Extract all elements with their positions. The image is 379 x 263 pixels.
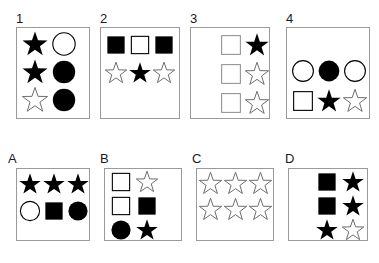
panel-D-shape-grid bbox=[314, 170, 366, 240]
shape-cell-star-filled bbox=[340, 170, 366, 194]
shape-cell-square-filled bbox=[314, 194, 340, 218]
panel-D: D bbox=[0, 0, 379, 263]
puzzle-figure: 1234ABCD bbox=[0, 0, 379, 263]
shape-cell-star-filled bbox=[340, 194, 366, 218]
square-filled-glyph bbox=[315, 194, 339, 218]
panel-D-label: D bbox=[285, 152, 294, 165]
shape-cell-square-filled bbox=[314, 170, 340, 194]
star-filled-glyph bbox=[341, 194, 365, 218]
star-outline-light-glyph bbox=[341, 218, 365, 242]
shape-cell-star-filled bbox=[314, 218, 340, 242]
star-filled-glyph bbox=[315, 218, 339, 242]
shape-cell-star-outline-light bbox=[340, 218, 366, 242]
star-filled-glyph bbox=[341, 170, 365, 194]
square-filled-glyph bbox=[315, 170, 339, 194]
